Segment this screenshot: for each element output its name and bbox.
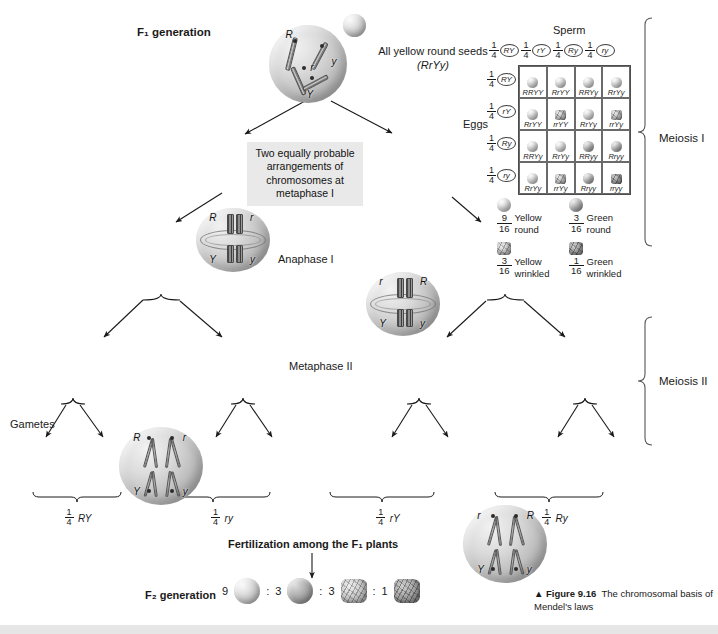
punnett-legend: 916 Yellow round 316 Green round <box>497 198 647 280</box>
seed-yellow-round <box>527 141 538 152</box>
punnett-genotype: RrYY <box>524 121 542 129</box>
fertilization-label: Fertilization among the F₁ plants <box>228 538 398 550</box>
punnett-genotype: Rryy <box>581 185 596 193</box>
note-box-text: Two equally probable arrangements of chr… <box>255 147 354 199</box>
legend-entry-1: 916 Yellow round <box>497 198 563 236</box>
allele-label-top-left: R <box>209 212 216 223</box>
fraction-quarter: 14 <box>376 508 385 527</box>
f2-count-1: 9 <box>222 585 228 597</box>
allele-label-bottom-right: y <box>250 254 255 265</box>
punnett-cell: RrYy <box>547 130 575 162</box>
seeds-line1: All yellow round seeds <box>368 44 498 58</box>
punnett-genotype: Rryy <box>608 153 623 161</box>
punnett-square-grid: RRYY RrYY RRYy RrYy RrYY rrYY RrYy rrYy … <box>518 65 631 195</box>
punnett-genotype: RRYY <box>523 89 544 97</box>
metaphase-note-box: Two equally probable arrangements of chr… <box>247 142 363 206</box>
allele-circle: ry <box>497 169 516 182</box>
legend-line1: Green <box>587 256 622 268</box>
punnett-cell: RrYy <box>602 66 630 98</box>
f2-separator-3: : <box>373 585 376 597</box>
punnett-genotype: RRyy <box>579 153 597 161</box>
punnett-genotype: rrYY <box>553 121 568 129</box>
seed-yellow-wrinkled <box>555 174 566 184</box>
gamete-bracket-label-2: 14 ry <box>182 508 262 527</box>
seed-yellow-round <box>611 77 622 88</box>
punnett-egg-header-4: 14 ry <box>487 166 516 185</box>
f1-parent-cell: R r y Y <box>269 25 347 103</box>
f2-count-3: 3 <box>328 585 334 597</box>
punnett-sperm-title: Sperm <box>553 24 585 36</box>
seeds-genotype: (RrYy) <box>368 58 498 72</box>
allele-label-top-right: r <box>250 212 253 223</box>
gamete-bracket-label-3: 14 rY <box>348 508 428 527</box>
allele-label-r: r <box>310 62 313 73</box>
punnett-cell: RRyy <box>575 130 603 162</box>
footer-rule <box>0 625 718 634</box>
punnett-genotype: RrYy <box>552 153 569 161</box>
figure-root: F₁ generation R r y Y All yellow round s… <box>0 0 718 634</box>
seed-yellow-round <box>555 77 566 88</box>
allele-label-top-right: r <box>183 432 186 443</box>
punnett-cell: Rryy <box>575 162 603 194</box>
punnett-genotype: rrYy <box>609 121 623 129</box>
punnett-genotype: rrYy <box>554 185 568 193</box>
punnett-cell: RRYy <box>519 130 547 162</box>
figure-caption: ▲ Figure 9.16 The chromosomal basis of M… <box>534 588 714 614</box>
allele-label-bottom-right: y <box>420 318 425 329</box>
punnett-sperm-header-4: 14 ry <box>585 41 615 60</box>
allele-label-bottom-left: Y <box>477 564 484 575</box>
punnett-genotype: RrYY <box>552 89 570 97</box>
seed-green-wrinkled <box>569 242 583 255</box>
gamete-genotype: RY <box>78 513 92 524</box>
seed-yellow-round <box>234 578 260 604</box>
legend-line1: Yellow <box>515 212 542 224</box>
punnett-sperm-header-1: 14 RY <box>489 41 519 60</box>
metaphase-ii-label: Metaphase II <box>289 360 353 372</box>
seed-yellow-wrinkled <box>611 110 622 120</box>
gamete-genotype: rY <box>390 513 400 524</box>
seed-green-round <box>569 198 583 212</box>
legend-line2: wrinkled <box>515 268 550 280</box>
gametes-label: Gametes <box>10 418 55 430</box>
seed-yellow-round <box>555 141 566 152</box>
allele-circle: rY <box>532 44 551 57</box>
allele-label-top-left: r <box>477 510 480 521</box>
seed-yellow-wrinkled <box>497 242 511 255</box>
allele-circle: Ry <box>564 44 583 57</box>
caption-label: Figure 9.16 <box>546 588 596 599</box>
allele-circle: RY <box>500 44 519 57</box>
punnett-cell: RrYy <box>575 98 603 130</box>
punnett-cell: rrYY <box>547 98 575 130</box>
fraction-quarter: 14 <box>211 508 220 527</box>
allele-circle: rY <box>497 105 516 118</box>
allele-label-bottom-left: Y <box>209 254 216 265</box>
punnett-cell: rrYy <box>602 98 630 130</box>
punnett-cell: RrYy <box>519 162 547 194</box>
f2-ratio-row: 9 : 3 : 3 : 1 <box>222 578 420 604</box>
punnett-genotype: RRYy <box>579 89 598 97</box>
seed-green-wrinkled <box>611 174 622 184</box>
punnett-eggs-title: Eggs <box>463 118 488 130</box>
seed-yellow-round-f1 <box>343 14 366 37</box>
seed-green-round <box>583 173 594 184</box>
punnett-genotype: RrYy <box>580 121 597 129</box>
allele-circle: ry <box>596 44 615 57</box>
seed-yellow-round <box>583 77 594 88</box>
allele-label-top-left: r <box>379 276 382 287</box>
punnett-cell: Rryy <box>602 130 630 162</box>
anaphase-i-label: Anaphase I <box>278 253 334 265</box>
meiosis-i-label: Meiosis I <box>659 132 704 144</box>
meiosis-ii-label: Meiosis II <box>659 375 708 387</box>
seed-green-wrinkled <box>394 579 420 603</box>
allele-circle: RY <box>497 73 516 86</box>
allele-label-top-right: R <box>420 276 427 287</box>
gamete-bracket-label-1: 14 RY <box>38 508 118 527</box>
punnett-cell: rryy <box>602 162 630 194</box>
punnett-cell: RrYY <box>519 98 547 130</box>
punnett-cell: RrYY <box>547 66 575 98</box>
seed-yellow-round <box>527 173 538 184</box>
punnett-sperm-header-3: 14 Ry <box>553 41 583 60</box>
f2-count-2: 3 <box>275 585 281 597</box>
punnett-genotype: RRYy <box>523 153 542 161</box>
punnett-cell: rrYy <box>547 162 575 194</box>
